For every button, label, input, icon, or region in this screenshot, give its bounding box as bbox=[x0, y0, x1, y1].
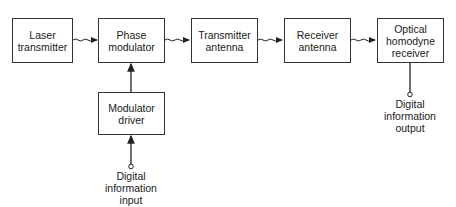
block-label: Laser bbox=[18, 29, 68, 41]
input-terminal bbox=[129, 164, 134, 169]
block-optical-homodyne-receiver: Opticalhomodynereceiver bbox=[377, 18, 444, 63]
terminal-label: Digital bbox=[91, 170, 171, 182]
block-phase-modulator: Phasemodulator bbox=[98, 18, 165, 63]
block-label: Optical bbox=[386, 23, 435, 35]
block-label: receiver bbox=[386, 47, 435, 59]
wavy-arrow-rx-to-homodyne bbox=[351, 39, 375, 41]
terminal-label: information bbox=[91, 182, 171, 194]
block-label: Transmitter bbox=[198, 29, 251, 41]
block-label: Receiver bbox=[297, 29, 338, 41]
block-label: Modulator bbox=[108, 102, 155, 114]
block-label: homodyne bbox=[386, 35, 435, 47]
block-label: antenna bbox=[198, 41, 251, 53]
terminal-label: output bbox=[370, 122, 450, 134]
block-transmitter-antenna: Transmitterantenna bbox=[191, 18, 258, 63]
terminal-digital-information-output: Digital information output bbox=[370, 98, 450, 134]
terminal-label: input bbox=[91, 194, 171, 206]
block-label: antenna bbox=[297, 41, 338, 53]
block-receiver-antenna: Receiverantenna bbox=[284, 18, 351, 63]
wavy-arrow-modulator-to-tx bbox=[165, 39, 189, 41]
block-label: transmitter bbox=[18, 41, 68, 53]
terminal-label: Digital bbox=[370, 98, 450, 110]
wavy-arrow-laser-to-modulator bbox=[73, 39, 97, 41]
wavy-arrow-tx-to-rx bbox=[258, 39, 282, 41]
block-label: driver bbox=[108, 114, 155, 126]
terminal-digital-information-input: Digital information input bbox=[91, 170, 171, 206]
block-modulator-driver: Modulatordriver bbox=[98, 92, 165, 135]
block-label: modulator bbox=[108, 41, 155, 53]
output-terminal bbox=[408, 92, 413, 97]
terminal-label: information bbox=[370, 110, 450, 122]
block-label: Phase bbox=[108, 29, 155, 41]
block-laser-transmitter: Lasertransmitter bbox=[12, 18, 73, 63]
